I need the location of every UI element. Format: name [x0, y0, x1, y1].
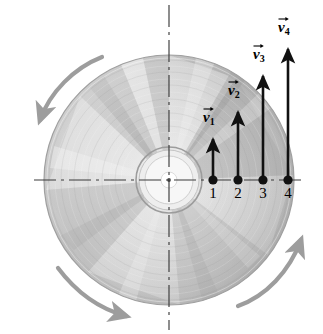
vector-label-v4: v4 — [278, 20, 290, 37]
rotating-disc-velocity-diagram: v1 v2 v3 v4 1 2 3 4 — [0, 0, 323, 334]
diagram-canvas — [0, 0, 323, 334]
point-dot-1 — [208, 175, 217, 184]
vector-overarrow-icon — [253, 43, 264, 49]
vector-subscript-v3: 3 — [260, 53, 265, 64]
point-label-1: 1 — [206, 186, 220, 201]
vector-label-v3: v3 — [253, 47, 265, 64]
vector-overarrow-icon — [278, 16, 289, 22]
point-label-2: 2 — [231, 186, 245, 201]
point-dot-2 — [233, 175, 242, 184]
vector-label-v1: v1 — [203, 110, 215, 127]
vector-subscript-v4: 4 — [285, 26, 290, 37]
point-label-3: 3 — [256, 186, 270, 201]
point-dot-3 — [258, 175, 267, 184]
vector-overarrow-icon — [228, 79, 239, 85]
point-label-4: 4 — [281, 186, 295, 201]
point-dot-4 — [283, 175, 292, 184]
vector-label-v2: v2 — [228, 83, 240, 100]
vector-subscript-v1: 1 — [210, 116, 215, 127]
vector-overarrow-icon — [203, 106, 214, 112]
vector-subscript-v2: 2 — [235, 89, 240, 100]
